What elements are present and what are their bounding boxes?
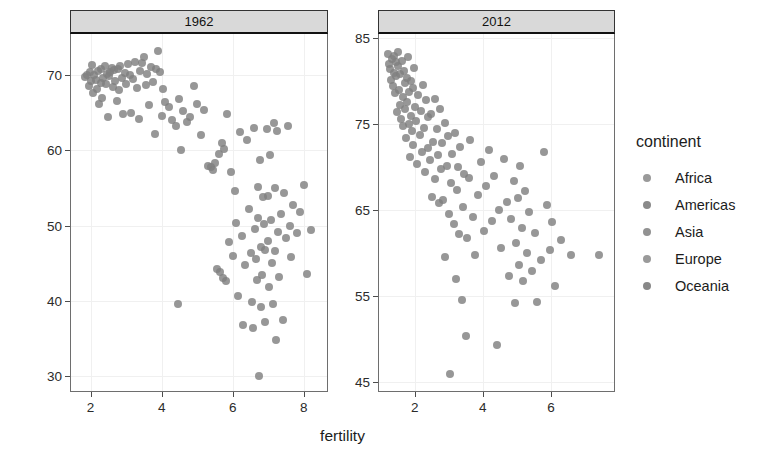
data-point — [271, 184, 279, 192]
data-point — [129, 75, 137, 83]
data-point — [307, 226, 315, 234]
data-point — [413, 160, 421, 168]
legend: continent AfricaAmericasAsiaEuropeOceani… — [636, 133, 735, 299]
legend-key — [636, 282, 658, 290]
data-point — [406, 153, 414, 161]
data-point — [159, 85, 167, 93]
data-point — [514, 194, 522, 202]
data-point — [414, 91, 422, 99]
data-point — [98, 94, 106, 102]
data-point — [264, 237, 272, 245]
data-point — [543, 201, 551, 209]
data-point — [537, 256, 545, 264]
data-point — [451, 129, 459, 137]
data-point — [172, 122, 180, 130]
data-point — [404, 53, 412, 61]
data-point — [197, 131, 205, 139]
legend-key — [636, 201, 658, 209]
data-point — [427, 110, 435, 118]
y-axis-tick-mark — [65, 226, 70, 227]
legend-key — [636, 174, 658, 182]
data-point — [269, 300, 277, 308]
data-point — [441, 119, 449, 127]
data-point — [303, 270, 311, 278]
data-point — [482, 182, 490, 190]
data-point — [133, 84, 141, 92]
data-point — [507, 215, 515, 223]
data-point — [243, 136, 251, 144]
data-point — [439, 196, 447, 204]
legend-swatch-icon — [643, 228, 651, 236]
facet-strip-label: 1962 — [70, 10, 328, 34]
data-point — [115, 86, 123, 94]
data-point — [515, 261, 523, 269]
legend-item[interactable]: Africa — [636, 164, 735, 191]
data-point — [493, 341, 501, 349]
data-point — [272, 336, 280, 344]
legend-swatch-icon — [643, 282, 651, 290]
gridline-horizontal — [379, 382, 614, 383]
data-point — [158, 112, 166, 120]
x-axis-tick-label: 2 — [411, 400, 419, 415]
data-point — [546, 246, 554, 254]
data-point — [200, 106, 208, 114]
data-point — [436, 105, 444, 113]
gridline-horizontal — [379, 38, 614, 39]
legend-item[interactable]: Asia — [636, 218, 735, 245]
legend-item[interactable]: Europe — [636, 245, 735, 272]
data-point — [521, 187, 529, 195]
legend-item[interactable]: Oceania — [636, 272, 735, 299]
data-point — [220, 145, 228, 153]
data-point — [174, 300, 182, 308]
data-point — [401, 105, 409, 113]
x-axis-tick-label: 2 — [87, 400, 95, 415]
data-point — [516, 162, 524, 170]
x-axis-tick-label: 6 — [547, 400, 555, 415]
data-point — [267, 216, 275, 224]
facet-panel: 1962 — [70, 10, 328, 392]
legend-title: continent — [636, 133, 735, 151]
data-point — [113, 97, 121, 105]
data-point — [119, 110, 127, 118]
gridline-vertical — [233, 34, 234, 391]
data-point — [551, 282, 559, 290]
data-point — [503, 198, 511, 206]
data-point — [450, 220, 458, 228]
y-axis-tick-mark — [373, 124, 378, 125]
data-point — [263, 125, 271, 133]
data-point — [186, 113, 194, 121]
data-point — [282, 234, 290, 242]
data-point — [300, 181, 308, 189]
data-point — [531, 229, 539, 237]
y-axis-tick-label: 45 — [330, 375, 370, 390]
data-point — [419, 81, 427, 89]
data-point — [505, 272, 513, 280]
legend-item[interactable]: Americas — [636, 191, 735, 218]
data-point — [145, 101, 153, 109]
data-point — [175, 95, 183, 103]
legend-swatch-icon — [643, 174, 651, 182]
data-point — [280, 189, 288, 197]
data-point — [165, 103, 173, 111]
data-point — [480, 227, 488, 235]
data-point — [209, 166, 217, 174]
data-point — [256, 156, 264, 164]
legend-item-label: Africa — [675, 170, 712, 186]
x-axis-title: fertility — [70, 427, 615, 445]
x-axis-tick-mark — [162, 392, 163, 397]
data-point — [471, 251, 479, 259]
data-point — [250, 124, 258, 132]
data-point — [512, 239, 520, 247]
y-axis-tick-mark — [373, 296, 378, 297]
y-axis-tick-mark — [373, 210, 378, 211]
gridline-vertical — [483, 34, 484, 391]
data-point — [445, 210, 453, 218]
data-point — [422, 96, 430, 104]
data-point — [456, 143, 464, 151]
data-point — [453, 186, 461, 194]
legend-items: AfricaAmericasAsiaEuropeOceania — [636, 164, 735, 299]
data-point — [232, 219, 240, 227]
data-point — [249, 324, 257, 332]
facet-strip-label: 2012 — [378, 10, 615, 34]
data-point — [421, 168, 429, 176]
